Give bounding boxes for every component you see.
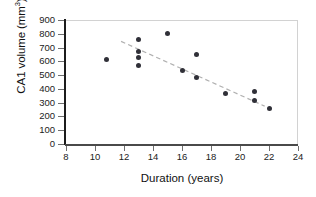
y-tick-800 <box>58 34 64 35</box>
y-tick-label-500: 500 <box>29 70 55 80</box>
x-tick-label-14: 14 <box>143 152 163 162</box>
y-tick-label-200: 200 <box>29 111 55 121</box>
data-point <box>136 49 141 54</box>
y-tick-200 <box>58 116 64 117</box>
y-tick-label-700: 700 <box>29 43 55 53</box>
x-tick-label-8: 8 <box>56 152 76 162</box>
y-tick-label-100: 100 <box>29 125 55 135</box>
y-tick-label-300: 300 <box>29 98 55 108</box>
x-tick-label-16: 16 <box>172 152 192 162</box>
y-axis-title-suffix: ) <box>15 0 27 2</box>
y-axis-title-superscript: 3 <box>13 2 22 6</box>
y-axis-line <box>64 19 66 145</box>
x-tick-label-18: 18 <box>201 152 221 162</box>
data-point <box>136 37 141 42</box>
x-tick-label-24: 24 <box>288 152 308 162</box>
y-tick-700 <box>58 48 64 49</box>
y-tick-900 <box>58 20 64 21</box>
y-tick-0 <box>58 144 64 145</box>
y-tick-600 <box>58 61 64 62</box>
x-tick-label-20: 20 <box>230 152 250 162</box>
y-tick-100 <box>58 130 64 131</box>
y-tick-300 <box>58 103 64 104</box>
y-tick-label-0: 0 <box>29 139 55 149</box>
plot-area <box>66 20 298 144</box>
data-point <box>223 91 228 96</box>
x-axis-title: Duration (years) <box>66 172 298 184</box>
y-tick-label-800: 800 <box>29 29 55 39</box>
y-axis-title-text: CA1 volume (mm <box>15 6 27 93</box>
y-tick-400 <box>58 89 64 90</box>
data-point <box>194 52 199 57</box>
scatter-chart: CA1 volume (mm3) 01002003004005006007008… <box>0 0 316 197</box>
y-tick-label-400: 400 <box>29 84 55 94</box>
y-tick-label-600: 600 <box>29 56 55 66</box>
x-tick-label-12: 12 <box>114 152 134 162</box>
y-tick-label-900: 900 <box>29 15 55 25</box>
data-point <box>136 63 141 68</box>
data-point <box>136 55 141 60</box>
y-axis-title: CA1 volume (mm3) <box>15 0 27 110</box>
y-tick-500 <box>58 75 64 76</box>
x-tick-label-22: 22 <box>259 152 279 162</box>
data-point <box>267 106 272 111</box>
x-tick-label-10: 10 <box>85 152 105 162</box>
